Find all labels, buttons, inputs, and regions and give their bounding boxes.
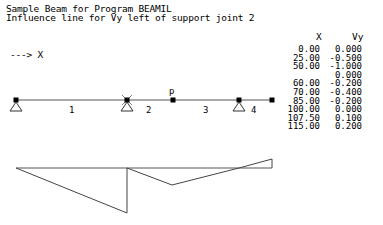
span-label-3: 3 — [203, 105, 208, 115]
span-label-4: 4 — [251, 105, 256, 115]
span-label-2: 2 — [146, 105, 151, 115]
point-p-joint-icon — [171, 98, 176, 103]
support-joint-2-marked-icon — [121, 95, 133, 111]
beam-diagram — [0, 0, 383, 225]
span-label-1: 1 — [69, 105, 74, 115]
influence-line — [16, 159, 272, 213]
point-p-label: p — [169, 86, 174, 96]
end-joint-icon — [270, 98, 275, 103]
